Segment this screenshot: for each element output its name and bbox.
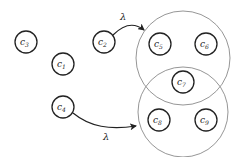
node-c1: c1 — [52, 53, 74, 75]
edge-label-top: λ — [119, 11, 126, 22]
node-c7: c7 — [172, 71, 194, 93]
node-c9: c9 — [195, 109, 217, 131]
node-c4: c4 — [52, 96, 74, 118]
node-c8: c8 — [148, 109, 170, 131]
node-c3: c3 — [15, 31, 37, 53]
node-c2: c2 — [93, 31, 115, 53]
diagram-canvas: λ λ c3 c1 c2 c4 c5 c6 c7 c8 c9 — [0, 0, 244, 157]
edge-c4-to-bottom-cluster — [73, 113, 136, 128]
edge-label-bottom: λ — [102, 131, 109, 142]
node-c5: c5 — [149, 33, 171, 55]
edge-c2-to-top-cluster — [113, 25, 144, 35]
node-c6: c6 — [195, 33, 217, 55]
